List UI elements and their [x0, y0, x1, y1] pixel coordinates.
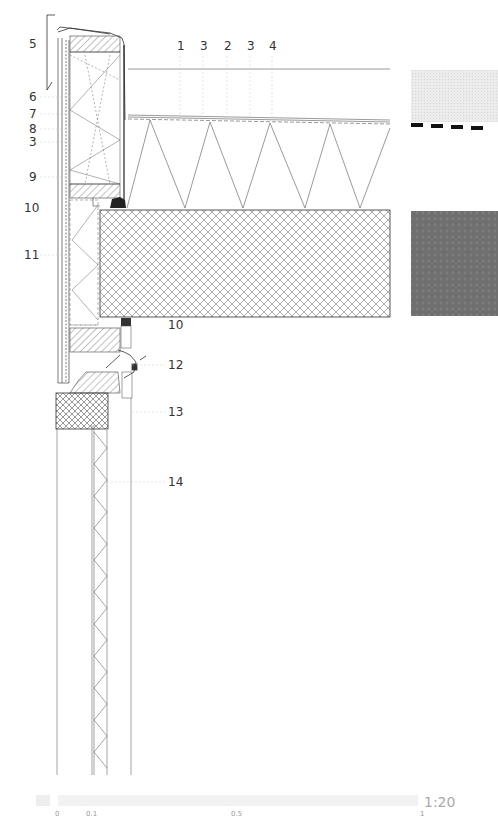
parapet-cap [47, 15, 125, 120]
callout-13: 13 [168, 406, 183, 418]
callout-3b: 3 [247, 40, 255, 52]
scale-tick-0-5: 0.5 [231, 810, 242, 818]
parapet-insulation [70, 52, 120, 184]
light-swatch [411, 70, 498, 122]
callout-5: 5 [29, 38, 37, 50]
scale-ratio: 1:20 [424, 794, 455, 810]
section-drawing [0, 0, 498, 838]
lintel [70, 328, 120, 352]
scale-bar [36, 795, 418, 806]
timber-plate [70, 184, 120, 198]
callout-2: 2 [224, 40, 232, 52]
window-frame [56, 393, 108, 429]
callout-11: 11 [24, 249, 39, 261]
outer-cladding [58, 38, 69, 383]
membrane-dash-icon [411, 123, 483, 130]
scale-tick-1: 1 [420, 810, 424, 818]
timber-cap [70, 36, 120, 52]
scale-tick-0-1: 0.1 [86, 810, 97, 818]
seal-10b [121, 318, 131, 326]
callout-3a: 3 [200, 40, 208, 52]
callout-8: 8 [29, 123, 37, 135]
callout-6: 6 [29, 91, 37, 103]
scale-tick-0: 0 [55, 810, 59, 818]
floor-slab [100, 210, 390, 317]
callout-3c: 3 [29, 136, 37, 148]
callout-14: 14 [168, 476, 183, 488]
sill-timber [70, 372, 120, 393]
callout-10b: 10 [168, 319, 183, 331]
callout-4: 4 [269, 40, 277, 52]
dark-swatch [411, 211, 498, 316]
callout-1: 1 [177, 40, 185, 52]
callout-12: 12 [168, 359, 183, 371]
callout-9: 9 [29, 171, 37, 183]
wall-insulation [70, 200, 98, 325]
roof-layers [127, 69, 390, 208]
callout-7: 7 [29, 108, 37, 120]
glazing [57, 398, 131, 775]
callout-10a: 10 [24, 202, 39, 214]
